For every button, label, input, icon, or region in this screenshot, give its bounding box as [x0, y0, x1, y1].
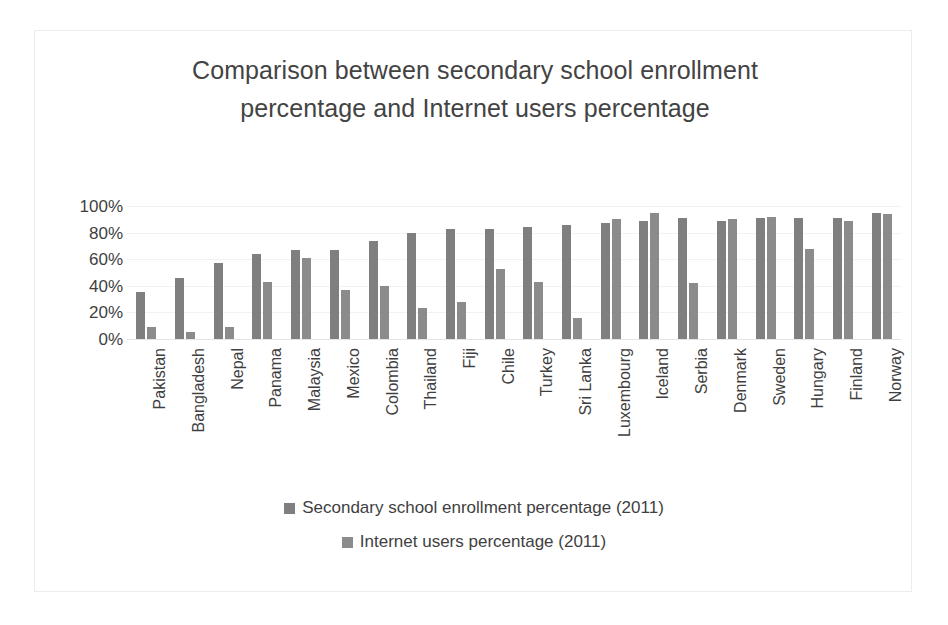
y-axis-tick-label: 100%	[55, 198, 123, 215]
x-axis-labels: PakistanBangladeshNepalPanamaMalaysiaMex…	[127, 346, 901, 476]
bar	[678, 218, 687, 339]
x-axis-label-cell: Pakistan	[127, 346, 166, 476]
bar	[794, 218, 803, 339]
bar-group	[630, 206, 669, 339]
bar	[214, 263, 223, 339]
x-axis-label-cell: Colombia	[359, 346, 398, 476]
bar-group	[243, 206, 282, 339]
bar	[369, 241, 378, 339]
plot-wrapper: 100%80%60%40%20%0% PakistanBangladeshNep…	[35, 206, 913, 496]
bar	[523, 227, 532, 339]
x-axis-label-cell: Thailand	[398, 346, 437, 476]
x-axis-label-cell: Chile	[475, 346, 514, 476]
y-axis-tick-label: 20%	[55, 304, 123, 321]
bar	[291, 250, 300, 339]
bar	[380, 286, 389, 339]
bar	[805, 249, 814, 339]
bar	[883, 214, 892, 339]
bar-group	[282, 206, 321, 339]
bar-series-container	[127, 206, 901, 339]
bar	[844, 221, 853, 339]
bar-group	[746, 206, 785, 339]
x-axis-tick-label: Norway	[888, 348, 904, 402]
x-axis-label-cell: Iceland	[630, 346, 669, 476]
bar	[446, 229, 455, 339]
bar-group	[862, 206, 901, 339]
legend-item[interactable]: Internet users percentage (2011)	[35, 533, 913, 551]
x-axis-label-cell: Fiji	[437, 346, 476, 476]
bar-group	[824, 206, 863, 339]
x-axis-label-cell: Sri Lanka	[553, 346, 592, 476]
gridline	[127, 339, 901, 340]
legend-label: Secondary school enrollment percentage (…	[302, 499, 664, 517]
y-axis-tick-label: 60%	[55, 251, 123, 268]
bar	[147, 327, 156, 339]
x-axis-label-cell: Malaysia	[282, 346, 321, 476]
bar-group	[708, 206, 747, 339]
bar	[263, 282, 272, 339]
bar-group	[669, 206, 708, 339]
x-axis-label-cell: Norway	[862, 346, 901, 476]
bar	[330, 250, 339, 339]
bar	[485, 229, 494, 339]
bar	[767, 217, 776, 339]
bar	[717, 221, 726, 339]
legend-item[interactable]: Secondary school enrollment percentage (…	[35, 499, 913, 517]
bar	[302, 258, 311, 339]
bar	[756, 218, 765, 339]
x-axis-label-cell: Finland	[824, 346, 863, 476]
bar	[728, 219, 737, 339]
bar-group	[204, 206, 243, 339]
x-axis-label-cell: Bangladesh	[166, 346, 205, 476]
chart-legend: Secondary school enrollment percentage (…	[35, 499, 913, 567]
bar	[573, 318, 582, 339]
x-axis-label-cell: Hungary	[785, 346, 824, 476]
y-axis: 100%80%60%40%20%0%	[55, 206, 123, 339]
bar	[496, 269, 505, 339]
bar	[186, 332, 195, 339]
bar	[407, 233, 416, 339]
y-axis-tick-label: 40%	[55, 277, 123, 294]
y-axis-tick-label: 0%	[55, 331, 123, 348]
bar	[872, 213, 881, 339]
plot-area	[127, 206, 901, 339]
bar-group	[437, 206, 476, 339]
chart-container: Comparison between secondary school enro…	[34, 30, 912, 592]
bar-group	[127, 206, 166, 339]
bar-group	[475, 206, 514, 339]
bar-group	[359, 206, 398, 339]
bar	[341, 290, 350, 339]
bar	[689, 283, 698, 339]
bar	[650, 213, 659, 339]
y-axis-tick-label: 80%	[55, 224, 123, 241]
bar-group	[553, 206, 592, 339]
x-axis-label-cell: Luxembourg	[591, 346, 630, 476]
bar-group	[321, 206, 360, 339]
bar	[457, 302, 466, 339]
bar-group	[514, 206, 553, 339]
x-axis-label-cell: Panama	[243, 346, 282, 476]
legend-swatch-icon	[284, 503, 295, 514]
x-axis-label-cell: Mexico	[321, 346, 360, 476]
bar-group	[591, 206, 630, 339]
x-axis-label-cell: Turkey	[514, 346, 553, 476]
x-axis-label-cell: Serbia	[669, 346, 708, 476]
bar	[175, 278, 184, 339]
bar	[601, 223, 610, 339]
x-axis-label-cell: Sweden	[746, 346, 785, 476]
legend-label: Internet users percentage (2011)	[360, 533, 606, 551]
legend-swatch-icon	[342, 537, 353, 548]
bar-group	[398, 206, 437, 339]
bar	[225, 327, 234, 339]
bar-group	[166, 206, 205, 339]
bar	[534, 282, 543, 339]
x-axis-label-cell: Denmark	[708, 346, 747, 476]
bar	[612, 219, 621, 339]
bar	[418, 308, 427, 339]
chart-title: Comparison between secondary school enro…	[155, 51, 795, 127]
bar	[833, 218, 842, 339]
bar-group	[785, 206, 824, 339]
bar	[639, 221, 648, 339]
x-axis-label-cell: Nepal	[204, 346, 243, 476]
bar	[252, 254, 261, 339]
